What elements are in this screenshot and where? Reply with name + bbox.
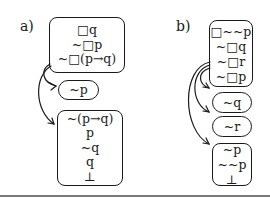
arrow-a1-a3 <box>39 66 54 124</box>
arrow-b1-b2 <box>201 68 211 88</box>
accessibility-arrows <box>0 0 270 202</box>
horizontal-rule <box>0 195 270 197</box>
